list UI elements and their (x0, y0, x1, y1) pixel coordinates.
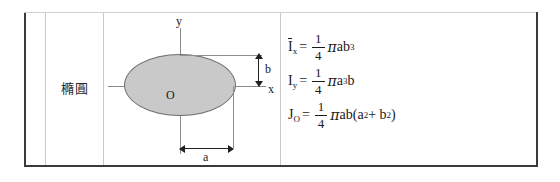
formula-ix: Ix = 1 4 π ab 3 (288, 30, 528, 64)
x-axis-label: x (268, 82, 274, 97)
table-border-bottom (24, 165, 538, 167)
dimension-b-arrow-down-icon (255, 81, 263, 87)
formula-iy-fraction: 1 4 (312, 66, 325, 96)
formula-jo-numerator: 1 (315, 100, 328, 113)
shape-name-label: 橢圓 (48, 82, 102, 96)
extension-line-center (180, 116, 181, 148)
formula-list: Ix = 1 4 π ab 3 Iy = 1 4 π a 3 b J (288, 30, 528, 132)
formula-ix-pi: π (328, 39, 337, 55)
formula-ix-equals: = (299, 39, 307, 55)
formula-iy-denominator: 4 (312, 83, 325, 96)
column-divider-2 (103, 13, 104, 165)
formula-iy: Iy = 1 4 π a 3 b (288, 64, 528, 98)
dimension-b-arrow-up-icon (255, 53, 263, 59)
formula-jo-body-mid: + b (368, 107, 386, 123)
extension-line-right (233, 86, 234, 148)
dimension-a-line (181, 148, 233, 149)
formula-ix-exponent: 3 (350, 42, 355, 52)
table-border-left (24, 12, 26, 167)
formula-jo-fraction: 1 4 (315, 100, 328, 130)
figure-table-panel: 橢圓 y x O b a Ix = 1 4 π ab (0, 0, 560, 182)
dimension-b-label: b (265, 62, 271, 77)
formula-ix-numerator: 1 (312, 32, 325, 45)
formula-jo-body-tail: ) (391, 107, 396, 123)
formula-ix-symbol: I (288, 39, 293, 55)
formula-ix-subscript: x (293, 46, 298, 56)
column-divider-3 (280, 13, 281, 165)
formula-iy-subscript: y (293, 80, 298, 90)
dimension-a-arrow-right-icon (228, 145, 234, 153)
formula-jo-denominator: 4 (315, 117, 328, 130)
formula-iy-pi: π (328, 73, 337, 89)
formula-ix-denominator: 4 (312, 49, 325, 62)
extension-line-top (180, 55, 262, 56)
formula-iy-equals: = (299, 73, 307, 89)
y-axis-label: y (176, 14, 182, 29)
formula-ix-body: ab (337, 39, 350, 55)
origin-label: O (166, 88, 175, 103)
formula-ix-fraction: 1 4 (312, 32, 325, 62)
formula-jo-equals: = (302, 107, 310, 123)
column-divider-1 (45, 13, 46, 165)
formula-iy-body-tail: b (348, 73, 355, 89)
formula-iy-numerator: 1 (312, 66, 325, 79)
table-border-right (536, 12, 538, 167)
dimension-a-label: a (203, 150, 208, 165)
formula-jo-pi: π (330, 107, 339, 123)
formula-jo: JO = 1 4 π ab(a 2 + b 2 ) (288, 98, 528, 132)
formula-jo-body: ab(a (340, 107, 364, 123)
dimension-a-arrow-left-icon (179, 145, 185, 153)
ellipse-shape (124, 54, 236, 116)
formula-jo-subscript: O (293, 114, 300, 124)
